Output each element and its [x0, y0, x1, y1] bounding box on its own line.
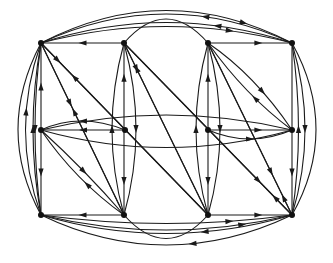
arrowhead-icon: [280, 193, 288, 202]
arrowhead-icon: [296, 125, 301, 133]
arrowhead-icon: [38, 83, 43, 91]
arrowhead-icon: [79, 212, 87, 217]
arrowhead-icon: [193, 125, 198, 133]
arrowhead-icon: [289, 169, 294, 177]
graph-edge: [41, 215, 292, 230]
graph-edge: [41, 14, 292, 43]
graph-edge: [41, 27, 292, 44]
arrowhead-icon: [66, 98, 74, 107]
graph-node-b2: [122, 127, 128, 133]
arrowhead-icon: [79, 40, 87, 45]
arrowhead-icon: [133, 125, 138, 133]
arrowhead-icon: [246, 136, 254, 141]
graph-node-c2: [121, 212, 127, 218]
arrowhead-icon: [38, 169, 43, 177]
graph-node-a2: [121, 40, 127, 46]
arrowhead-icon: [302, 125, 307, 133]
arrowhead-icon: [200, 229, 208, 235]
arrowhead-icon: [205, 177, 210, 185]
graph-edge: [41, 115, 292, 130]
graph-node-a4: [289, 40, 295, 46]
graph-node-b4: [289, 127, 295, 133]
graph-node-a1: [38, 40, 44, 46]
graph-node-b3: [205, 127, 211, 133]
graph-edge: [208, 130, 292, 139]
graph-edge: [208, 43, 292, 130]
graph-node-c3: [205, 212, 211, 218]
directed-graph: [0, 0, 333, 263]
edge-layer: [18, 11, 316, 246]
graph-edge: [208, 43, 292, 130]
arrowhead-icon: [254, 40, 262, 45]
graph-node-c4: [289, 212, 295, 218]
arrowhead-icon: [225, 218, 233, 224]
arrowhead-icon: [23, 107, 29, 115]
graph-edge: [41, 23, 292, 44]
graph-edge: [124, 215, 208, 239]
arrowhead-icon: [121, 177, 126, 185]
graph-edge: [41, 130, 124, 215]
arrowhead-icon: [217, 125, 222, 133]
graph-node-a3: [205, 40, 211, 46]
arrowhead-icon: [254, 212, 262, 217]
graph-node-b1: [38, 127, 44, 133]
arrowhead-icon: [188, 241, 196, 247]
graph-node-c1: [38, 212, 44, 218]
graph-edge: [41, 130, 124, 215]
arrowhead-icon: [70, 107, 78, 116]
arrowhead-icon: [121, 74, 126, 82]
arrowhead-icon: [254, 127, 262, 132]
arrowhead-icon: [267, 167, 275, 176]
arrowhead-icon: [205, 74, 210, 82]
arrowhead-icon: [79, 127, 87, 132]
